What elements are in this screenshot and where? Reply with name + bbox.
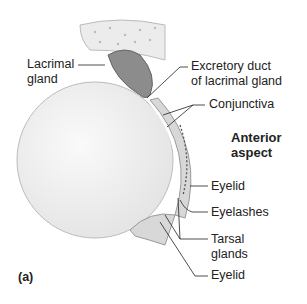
label-eyelid-lower: Eyelid: [211, 268, 245, 283]
label-conjunctiva: Conjunctiva: [209, 97, 274, 112]
label-eyelid-upper: Eyelid: [211, 179, 245, 194]
eyeball: [17, 82, 173, 238]
label-anterior-aspect: Anterior aspect: [231, 130, 282, 160]
label-eyelashes: Eyelashes: [211, 205, 269, 220]
label-tarsal-glands: Tarsal glands: [211, 232, 248, 262]
label-lacrimal-gland: Lacrimal gland: [27, 57, 74, 87]
figure-label: (a): [18, 270, 33, 285]
label-excretory-duct: Excretory duct of lacrimal gland: [191, 59, 282, 89]
